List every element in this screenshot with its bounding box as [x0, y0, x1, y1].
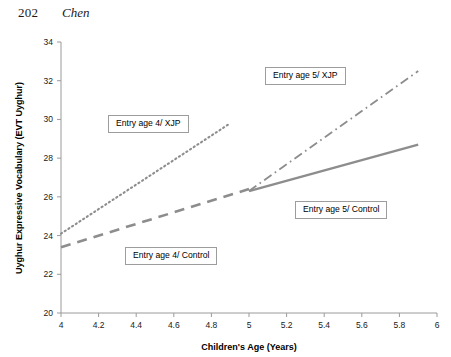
y-tick-label: 24 [44, 231, 54, 241]
x-tick-label: 4.8 [205, 320, 217, 330]
x-tick-label: 6 [435, 320, 440, 330]
x-tick-label: 5.8 [393, 320, 405, 330]
annotation-entry-age-4-control: Entry age 4/ Control [125, 247, 217, 265]
y-tick-label: 34 [44, 37, 54, 47]
annotation-entry-age-5-xjp: Entry age 5/ XJP [265, 67, 346, 85]
page-running-head: 202 Chen [0, 0, 451, 30]
series-line-2 [249, 71, 418, 191]
x-tick-label: 4.6 [168, 320, 180, 330]
series-line-0 [61, 123, 230, 233]
x-tick-label: 5 [247, 320, 252, 330]
y-tick-label: 22 [44, 269, 54, 279]
chart-figure: 2022242628303234 44.24.44.64.855.25.45.6… [0, 28, 451, 357]
page-number: 202 [18, 5, 38, 21]
y-axis-title: Uyghur Expressive Vocabulary (EVT Uyghur… [14, 82, 24, 274]
y-tick-label: 26 [44, 192, 54, 202]
y-tick-label: 20 [44, 308, 54, 318]
x-tick-label: 4.2 [93, 320, 105, 330]
x-tick-label: 4.4 [130, 320, 142, 330]
series-line-3 [249, 145, 418, 191]
chart-series-group [61, 71, 418, 247]
x-axis-ticks: 44.24.44.64.855.25.45.65.86 [59, 313, 440, 330]
annotation-entry-age-5-control: Entry age 5/ Control [295, 201, 387, 219]
chart-plot-area: 2022242628303234 44.24.44.64.855.25.45.6… [0, 28, 451, 357]
y-tick-label: 28 [44, 153, 54, 163]
x-tick-label: 4 [59, 320, 64, 330]
x-axis-title: Children's Age (Years) [201, 342, 296, 352]
y-tick-label: 30 [44, 114, 54, 124]
series-line-1 [61, 189, 249, 247]
x-tick-label: 5.2 [281, 320, 293, 330]
annotation-entry-age-4-xjp: Entry age 4/ XJP [108, 115, 189, 133]
y-axis-ticks: 2022242628303234 [44, 37, 61, 318]
x-tick-label: 5.6 [356, 320, 368, 330]
y-tick-label: 32 [44, 76, 54, 86]
running-head-author: Chen [62, 5, 89, 21]
x-tick-label: 5.4 [318, 320, 330, 330]
